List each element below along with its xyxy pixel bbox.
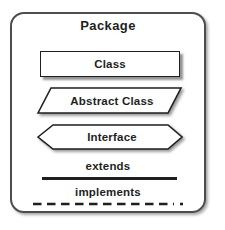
implements-label: implements (12, 186, 204, 198)
implements-dashed-line (33, 201, 185, 207)
package-title: Package (12, 18, 204, 33)
interface-label: Interface (37, 124, 187, 150)
package-container: Package Class Abstract Class Interface e… (10, 12, 206, 213)
legend-item-class: Class (40, 51, 180, 77)
diagram-canvas: Package Class Abstract Class Interface e… (0, 0, 225, 230)
abstract-class-label: Abstract Class (37, 87, 187, 114)
legend-item-interface: Interface (37, 124, 187, 150)
extends-solid-line (42, 177, 177, 180)
legend-item-abstract-class: Abstract Class (37, 87, 187, 114)
class-label: Class (40, 51, 180, 77)
extends-label: extends (12, 160, 204, 172)
